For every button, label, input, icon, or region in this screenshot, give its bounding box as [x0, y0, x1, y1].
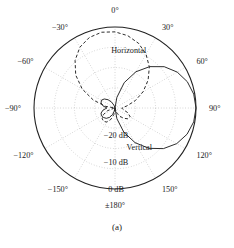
radial-tick-labels: −20 dB−10 dB0 dB — [104, 131, 129, 194]
angle-label: 30° — [162, 23, 173, 32]
angle-label: 150° — [162, 185, 178, 194]
annotation-vertical: Vertical — [127, 143, 153, 152]
db-tick-label: 0 dB — [108, 185, 124, 194]
angle-label: 90° — [209, 104, 220, 113]
angle-label: ±180° — [105, 201, 125, 210]
angle-label: −120° — [13, 151, 33, 160]
angle-label: 60° — [196, 57, 207, 66]
db-tick-label: −20 dB — [104, 131, 129, 140]
polar-radiation-pattern-figure: 0°30°60°90°120°150°±180°−150°−120°−90°−6… — [0, 0, 234, 248]
angle-label: 120° — [196, 151, 212, 160]
angle-label: −30° — [52, 23, 68, 32]
angle-label: −90° — [5, 104, 21, 113]
polar-plot-canvas: 0°30°60°90°120°150°±180°−150°−120°−90°−6… — [0, 0, 234, 248]
angle-label: −150° — [48, 185, 68, 194]
angle-label: 0° — [111, 6, 118, 15]
annotation-horizontal: Horizontal — [111, 46, 147, 55]
figure-caption: (a) — [0, 222, 234, 232]
angle-label: −60° — [18, 57, 34, 66]
db-tick-label: −10 dB — [104, 158, 129, 167]
